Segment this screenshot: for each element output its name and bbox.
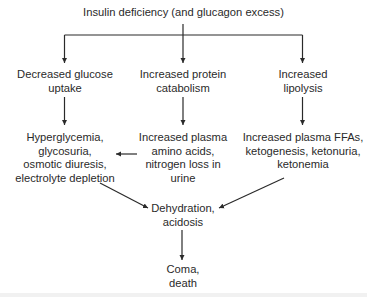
- node-line: Insulin deficiency (and glucagon excess): [0, 6, 367, 20]
- node-increased-plasma-ffas: Increased plasma FFAs, ketogenesis, keto…: [238, 131, 367, 172]
- node-line: osmotic diuresis,: [4, 158, 126, 172]
- node-decreased-glucose-uptake: Decreased glucose uptake: [4, 68, 126, 95]
- node-line: electrolyte depletion: [4, 172, 126, 186]
- node-dehydration-acidosis: Dehydration, acidosis: [133, 202, 233, 229]
- node-line: Hyperglycemia,: [4, 131, 126, 145]
- node-line: Increased: [253, 68, 353, 82]
- node-increased-plasma-amino-acids: Increased plasma amino acids, nitrogen l…: [133, 131, 233, 185]
- node-coma-death: Coma, death: [133, 263, 233, 290]
- node-line: Decreased glucose: [4, 68, 126, 82]
- node-line: ketonemia: [238, 158, 367, 172]
- node-line: nitrogen loss in: [133, 158, 233, 172]
- node-line: catabolism: [123, 82, 243, 96]
- node-line: uptake: [4, 82, 126, 96]
- node-hyperglycemia: Hyperglycemia, glycosuria, osmotic diure…: [4, 131, 126, 185]
- node-increased-lipolysis: Increased lipolysis: [253, 68, 353, 95]
- node-line: Increased plasma: [133, 131, 233, 145]
- node-insulin-deficiency: Insulin deficiency (and glucagon excess): [0, 6, 367, 20]
- node-line: urine: [133, 172, 233, 186]
- bottom-border: [0, 293, 367, 297]
- node-line: glycosuria,: [4, 145, 126, 159]
- node-line: death: [133, 277, 233, 291]
- node-increased-protein-catabolism: Increased protein catabolism: [123, 68, 243, 95]
- node-line: Increased plasma FFAs,: [238, 131, 367, 145]
- node-line: Increased protein: [123, 68, 243, 82]
- node-line: acidosis: [133, 216, 233, 230]
- node-line: Coma,: [133, 263, 233, 277]
- node-line: lipolysis: [253, 82, 353, 96]
- node-line: amino acids,: [133, 145, 233, 159]
- node-line: ketogenesis, ketonuria,: [238, 145, 367, 159]
- node-line: Dehydration,: [133, 202, 233, 216]
